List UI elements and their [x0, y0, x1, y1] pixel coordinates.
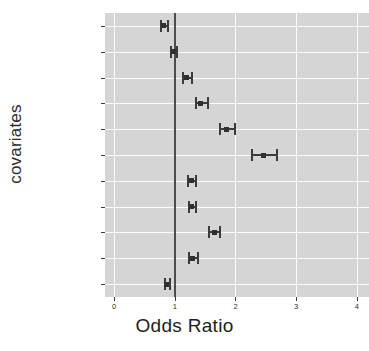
horizontal-gridline	[105, 258, 369, 259]
ci-upper-cap	[197, 252, 199, 264]
point-estimate	[212, 230, 217, 235]
ci-lower-cap	[208, 226, 210, 238]
estimate-marker	[188, 201, 197, 213]
estimate-marker	[160, 20, 168, 32]
point-estimate	[198, 101, 203, 106]
estimate-marker	[219, 123, 236, 135]
ci-upper-cap	[207, 97, 209, 109]
horizontal-gridline	[105, 26, 369, 27]
horizontal-gridline	[105, 181, 369, 182]
point-estimate	[164, 282, 169, 287]
x-axis-tick-label: 3	[294, 302, 298, 311]
plot-panel	[105, 13, 369, 297]
y-axis-tick-mark	[101, 78, 105, 79]
horizontal-gridline	[105, 129, 369, 130]
ci-upper-cap	[167, 20, 169, 32]
estimate-marker	[187, 175, 197, 187]
y-axis-tick-mark	[101, 258, 105, 259]
horizontal-gridline	[105, 232, 369, 233]
x-axis-tick-label: 0	[112, 302, 116, 311]
x-axis-tick-mark	[235, 297, 236, 301]
y-axis-tick-mark	[101, 207, 105, 208]
ci-upper-cap	[176, 46, 178, 58]
x-axis-tick-label: 2	[233, 302, 237, 311]
estimate-marker	[182, 72, 193, 84]
estimate-marker	[164, 278, 170, 290]
horizontal-gridline	[105, 52, 369, 53]
horizontal-gridline	[105, 207, 369, 208]
ci-upper-cap	[276, 149, 278, 161]
ci-lower-cap	[251, 149, 253, 161]
horizontal-gridline	[105, 103, 369, 104]
x-axis-tick-mark	[175, 297, 176, 301]
y-axis-tick-mark	[101, 129, 105, 130]
estimate-marker	[195, 97, 209, 109]
ci-upper-cap	[219, 226, 221, 238]
point-estimate	[190, 256, 195, 261]
x-axis-tick-label: 4	[355, 302, 359, 311]
x-axis-tick-mark	[357, 297, 358, 301]
estimate-marker	[170, 46, 178, 58]
y-axis-tick-mark	[101, 284, 105, 285]
point-estimate	[261, 153, 266, 158]
ci-upper-cap	[234, 123, 236, 135]
ci-lower-cap	[219, 123, 221, 135]
x-axis-tick-mark	[114, 297, 115, 301]
y-axis-tick-mark	[101, 103, 105, 104]
point-estimate	[161, 23, 166, 28]
forest-plot-figure: covariates Age: <18Age: 18-19Wealth Quin…	[0, 0, 369, 351]
estimate-marker	[208, 226, 221, 238]
x-axis-tick-mark	[296, 297, 297, 301]
point-estimate	[189, 204, 194, 209]
x-axis-tick-label: 1	[173, 302, 177, 311]
y-axis-title: covariates	[6, 84, 26, 204]
x-axis-title: Odds Ratio	[0, 315, 369, 337]
y-axis-tick-mark	[101, 155, 105, 156]
ci-lower-cap	[195, 97, 197, 109]
ci-upper-cap	[195, 175, 197, 187]
estimate-marker	[251, 149, 278, 161]
y-axis-tick-mark	[101, 52, 105, 53]
point-estimate	[224, 127, 229, 132]
y-axis-tick-mark	[101, 232, 105, 233]
y-axis-tick-mark	[101, 26, 105, 27]
ci-upper-cap	[195, 201, 197, 213]
point-estimate	[184, 75, 189, 80]
ci-upper-cap	[191, 72, 193, 84]
horizontal-gridline	[105, 155, 369, 156]
horizontal-gridline	[105, 284, 369, 285]
point-estimate	[189, 178, 194, 183]
y-axis-tick-mark	[101, 181, 105, 182]
horizontal-gridline	[105, 78, 369, 79]
estimate-marker	[188, 252, 199, 264]
point-estimate	[171, 49, 176, 54]
